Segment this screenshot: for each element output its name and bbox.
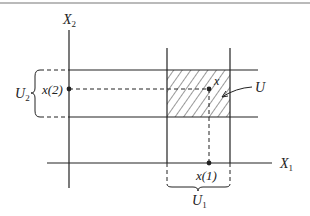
x2-axis-label: X2 [62,12,76,29]
x2-label: x(2) [41,82,63,97]
x1-axis-label: X1 [279,156,293,173]
U2-label: U2 [15,86,30,103]
product-set-diagram: X2 X1 x x(2) x(1) U U2 U1 [0,0,310,216]
u2-brace [31,70,40,117]
point-x-label: x [213,74,220,88]
U-label: U [255,80,266,95]
x1-label: x(1) [195,168,217,183]
U1-label: U1 [192,193,207,210]
point-x [207,87,212,92]
set-U-region [167,70,230,117]
u1-brace [167,184,230,191]
point-x1 [207,161,212,166]
point-x2 [67,87,72,92]
